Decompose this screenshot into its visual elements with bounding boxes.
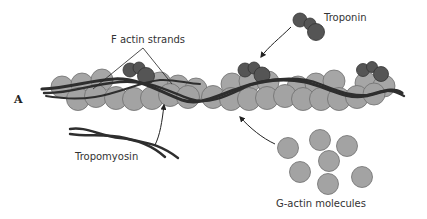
troponin-arrow	[261, 27, 291, 57]
g-actin-arrow	[240, 117, 275, 144]
troponin-label: Troponin	[323, 12, 367, 23]
tropomyosin-label: Tropomyosin	[74, 151, 138, 162]
f-actin-label: F actin strands	[111, 34, 185, 45]
panel-label: A	[13, 93, 23, 106]
g-actin-label: G-actin molecules	[276, 198, 366, 209]
troponin-free	[293, 13, 325, 41]
tropomyosin-arrow	[155, 105, 164, 145]
actin-filament-diagram: A	[0, 0, 427, 219]
g-actin-free	[278, 130, 373, 195]
